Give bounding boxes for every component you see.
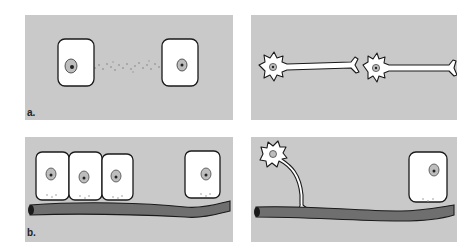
panel-label-b: b. xyxy=(27,227,36,238)
endocrine-epithelium-diagram xyxy=(25,137,233,242)
blood-vessel xyxy=(256,205,454,221)
synaptic-diagram xyxy=(251,15,457,120)
neuroendocrine-diagram xyxy=(251,137,457,242)
blood-vessel xyxy=(30,201,230,217)
epithelial-cells xyxy=(36,151,220,200)
panel-label-a: a. xyxy=(27,107,35,118)
neuron-2 xyxy=(363,53,457,82)
panel-b-right xyxy=(251,137,457,242)
neuron-1 xyxy=(259,52,359,81)
target-cell xyxy=(409,152,447,202)
panel-a-right xyxy=(251,15,457,120)
signal-molecules xyxy=(86,60,172,73)
paracrine-diagram xyxy=(25,15,233,120)
panel-b-left: b. xyxy=(25,137,233,242)
neurosecretory-neuron xyxy=(260,141,313,212)
panel-a-left: a. xyxy=(25,15,233,120)
